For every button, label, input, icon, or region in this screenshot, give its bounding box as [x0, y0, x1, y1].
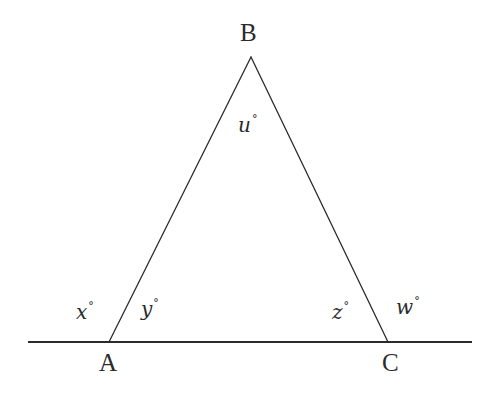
- angle-x-degree-sign: °: [88, 300, 94, 313]
- angle-u-variable: u: [238, 113, 251, 137]
- angle-label-u: u°: [238, 115, 256, 135]
- angle-x-variable: x: [76, 300, 87, 324]
- angle-y-variable: y: [141, 297, 152, 321]
- vertex-label-a: A: [99, 350, 118, 375]
- geometry-figure: B A C u° x° y° z° w°: [0, 0, 497, 398]
- angle-y-degree-sign: °: [153, 297, 159, 310]
- angle-label-y: y°: [141, 299, 158, 319]
- angle-z-variable: z: [332, 300, 343, 324]
- angle-u-degree-sign: °: [252, 113, 258, 126]
- figure-canvas: [0, 0, 497, 398]
- angle-w-degree-sign: °: [414, 295, 420, 308]
- angle-w-variable: w: [396, 295, 413, 319]
- vertex-label-b: B: [240, 20, 257, 45]
- vertex-label-c: C: [382, 350, 399, 375]
- angle-label-w: w°: [396, 297, 419, 317]
- angle-z-degree-sign: °: [344, 300, 350, 313]
- angle-label-x: x°: [76, 302, 93, 322]
- angle-label-z: z°: [332, 302, 348, 322]
- triangle-side-bc: [251, 57, 388, 342]
- triangle-side-ab: [109, 57, 251, 342]
